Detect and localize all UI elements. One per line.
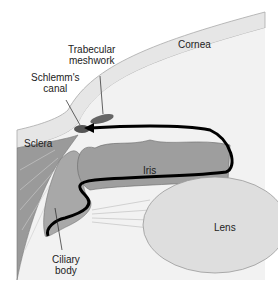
label-trabecular-meshwork: Trabecular meshwork	[68, 44, 115, 66]
label-line: Trabecular	[68, 44, 115, 55]
label-line: body	[52, 265, 80, 276]
label-line: Schlemm's	[31, 72, 80, 83]
label-schlemms-canal: Schlemm's canal	[31, 72, 80, 94]
lens	[143, 177, 278, 273]
label-line: meshwork	[68, 55, 115, 66]
label-line: canal	[31, 83, 80, 94]
label-cornea: Cornea	[178, 39, 211, 50]
label-sclera: Sclera	[24, 138, 52, 149]
eye-diagram	[0, 0, 278, 308]
label-ciliary-body: Ciliary body	[52, 254, 80, 276]
label-lens: Lens	[214, 222, 236, 233]
label-line: Ciliary	[52, 254, 80, 265]
label-iris: Iris	[143, 165, 156, 176]
